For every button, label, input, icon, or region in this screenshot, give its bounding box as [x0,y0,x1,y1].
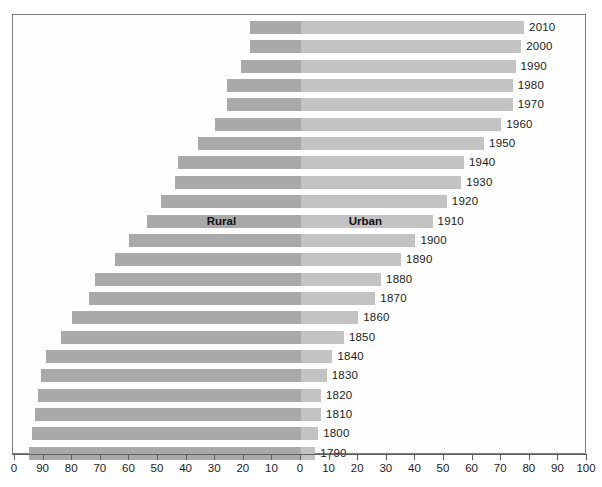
x-tick-label: 10 [322,462,335,474]
bar-segment-urban [301,253,401,266]
bar-segment-rural [227,79,301,92]
x-tick-label: 70 [494,462,507,474]
bar-segment-rural [215,118,301,131]
bar-segment-rural [115,253,301,266]
x-tick-label: 0 [11,462,17,474]
bar-segment-rural [250,40,301,53]
bar-segment-rural [95,273,301,286]
x-tick [472,454,473,460]
bar-year-label: 1900 [420,233,446,247]
x-tick-label: 10 [265,462,278,474]
bar-segment-rural [41,369,301,382]
x-tick-label: 30 [208,462,221,474]
bar-year-label: 1970 [518,97,544,111]
bar-year-label: 1910 [438,214,464,228]
x-tick [386,454,387,460]
bar-segment-urban [301,389,321,402]
bar-segment-rural [175,176,301,189]
bar-segment-rural [129,234,301,247]
bar-segment-urban [301,311,358,324]
x-tick-label: 90 [36,462,49,474]
x-tick [271,454,272,460]
bar-segment-rural [241,60,301,73]
bar-segment-urban [301,156,464,169]
bar-year-label: 1960 [506,117,532,131]
x-tick [243,454,244,460]
bar-segment-urban [301,408,321,421]
x-tick-label: 20 [236,462,249,474]
x-tick-label: 100 [576,462,595,474]
bar-year-label: 1880 [386,272,412,286]
bar-segment-rural [61,331,301,344]
x-tick [586,454,587,460]
x-tick [43,454,44,460]
bar-segment-urban [301,273,381,286]
bar-segment-urban [301,195,447,208]
bar-segment-rural [178,156,301,169]
bar-segment-urban [301,427,318,440]
x-tick [357,454,358,460]
bar-segment-rural [198,137,301,150]
x-tick-label: 70 [93,462,106,474]
bar-segment-rural [227,98,301,111]
x-tick [14,454,15,460]
bar-segment-urban [301,137,484,150]
x-tick [300,454,301,460]
bar-segment-urban [301,21,524,34]
bar-year-label: 1930 [466,175,492,189]
bar-year-label: 1990 [521,59,547,73]
bar-year-label: 1870 [380,291,406,305]
population-rural-urban-chart: 2010200019901980197019601950194019301920… [0,0,602,487]
x-tick [414,454,415,460]
x-tick-label: 90 [551,462,564,474]
bar-segment-urban [301,234,415,247]
x-tick [157,454,158,460]
x-tick-label: 50 [151,462,164,474]
x-tick-label: 40 [408,462,421,474]
x-tick-label: 20 [351,462,364,474]
bar-segment-urban [301,60,516,73]
bar-year-label: 1810 [326,407,352,421]
series-label-rural: Rural [207,214,236,228]
x-tick [529,454,530,460]
bar-year-label: 1890 [406,252,432,266]
bar-year-label: 1830 [332,368,358,382]
bar-year-label: 1950 [489,136,515,150]
bar-year-label: 1940 [469,155,495,169]
bar-year-label: 1850 [349,330,375,344]
plot-area: 2010200019901980197019601950194019301920… [12,14,586,454]
x-tick-label: 0 [297,462,303,474]
bar-year-label: 1800 [323,426,349,440]
bar-segment-rural [161,195,301,208]
bar-segment-rural [32,427,301,440]
x-tick [214,454,215,460]
x-tick [128,454,129,460]
x-tick-label: 40 [179,462,192,474]
bar-year-label: 1820 [326,388,352,402]
bar-segment-rural [89,292,301,305]
bar-year-label: 1860 [363,310,389,324]
x-tick-label: 30 [379,462,392,474]
x-tick [557,454,558,460]
bar-segment-urban [301,176,461,189]
bar-year-label: 1840 [337,349,363,363]
x-tick [71,454,72,460]
bar-segment-urban [301,292,375,305]
bar-segment-rural [35,408,301,421]
x-tick [443,454,444,460]
bar-segment-rural [250,21,301,34]
bar-segment-urban [301,331,344,344]
x-tick [100,454,101,460]
series-label-urban: Urban [349,214,382,228]
bar-segment-rural [46,350,301,363]
x-tick [500,454,501,460]
x-tick-label: 80 [522,462,535,474]
bar-segment-rural [72,311,301,324]
x-tick [329,454,330,460]
x-axis: 0908070605040302010010203040506070809010… [12,454,586,487]
x-tick-label: 60 [122,462,135,474]
bar-year-label: 2000 [526,39,552,53]
x-tick-label: 80 [65,462,78,474]
bar-year-label: 1980 [518,78,544,92]
bar-year-label: 1920 [452,194,478,208]
